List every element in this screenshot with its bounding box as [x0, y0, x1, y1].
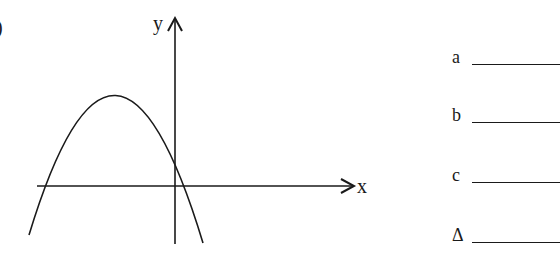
- answer-label-a: a: [452, 48, 460, 66]
- y-axis-label: y: [153, 12, 163, 35]
- answer-label-delta: Δ: [452, 226, 464, 244]
- parabola-graph: ) x y: [0, 0, 420, 263]
- answer-blank-a[interactable]: [472, 64, 560, 65]
- x-axis-label: x: [357, 175, 367, 197]
- answer-label-b: b: [452, 106, 461, 124]
- parabola-curve: [29, 95, 203, 243]
- answer-label-c: c: [452, 166, 460, 184]
- answer-blank-c[interactable]: [472, 182, 560, 183]
- answer-row-c: c: [448, 162, 560, 186]
- answer-row-a: a: [448, 44, 560, 68]
- answer-row-b: b: [448, 102, 560, 126]
- answer-blank-b[interactable]: [472, 122, 560, 123]
- answer-row-delta: Δ: [448, 222, 560, 246]
- answer-blank-delta[interactable]: [472, 242, 560, 243]
- question-number-fragment: ): [0, 16, 3, 39]
